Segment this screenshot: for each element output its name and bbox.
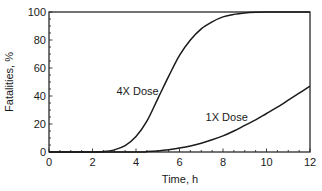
x-tick-label: 2 (89, 156, 95, 168)
curves (49, 12, 310, 152)
y-tick-label: 0 (40, 146, 46, 158)
x-tick-label: 8 (220, 156, 226, 168)
labels: 4X Dose1X Dose (116, 85, 247, 124)
curve-1x-dose (49, 86, 310, 152)
axes: 024681012020406080100 (28, 6, 316, 168)
y-tick-label: 80 (34, 34, 46, 46)
x-tick-label: 6 (176, 156, 182, 168)
y-tick-label: 40 (34, 90, 46, 102)
y-tick-label: 100 (28, 6, 46, 18)
x-tick-label: 10 (260, 156, 272, 168)
y-axis-label: Fatalities, % (3, 52, 15, 112)
series-label: 1X Dose (206, 111, 248, 123)
x-axis-label: Time, h (162, 173, 198, 185)
y-tick-label: 20 (34, 118, 46, 130)
x-tick-label: 12 (304, 156, 316, 168)
curve-4x-dose (49, 12, 310, 152)
fatalities-chart: 024681012020406080100 4X Dose1X Dose Tim… (0, 0, 322, 191)
plot-frame (49, 12, 310, 152)
y-tick-label: 60 (34, 62, 46, 74)
x-tick-label: 0 (46, 156, 52, 168)
series-label: 4X Dose (116, 85, 158, 97)
x-tick-label: 4 (133, 156, 139, 168)
